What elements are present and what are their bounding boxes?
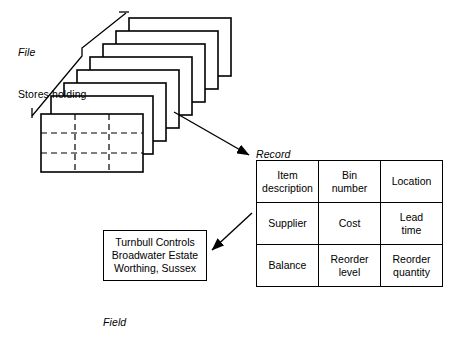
cell-line-1: Bin	[321, 169, 378, 182]
table-row: Item description Bin number Location	[257, 161, 443, 203]
table-cell-reorder-quantity: Reorder quantity	[381, 245, 443, 287]
table-cell-lead-time: Lead time	[381, 203, 443, 245]
table-row: Balance Reorder level Reorder quantity	[257, 245, 443, 287]
file-term-label: File	[18, 46, 87, 59]
table-cell-reorder-level: Reorder level	[319, 245, 381, 287]
field-line-3: Worthing, Sussex	[114, 262, 196, 275]
cell-line-1: Item	[259, 169, 316, 182]
data-hierarchy-diagram: File Stores holding Record Detail of one…	[0, 0, 456, 346]
cell-line-2: quantity	[383, 266, 440, 279]
cell-line-1: Location	[383, 175, 440, 188]
file-caption: File Stores holding	[18, 20, 87, 127]
cell-line-2: level	[321, 266, 378, 279]
cell-line-1: Reorder	[383, 253, 440, 266]
cell-line-2: description	[259, 182, 316, 195]
table-cell-balance: Balance	[257, 245, 319, 287]
cell-line-1: Cost	[321, 217, 378, 230]
file-description-label: Stores holding	[18, 88, 87, 101]
cell-line-1: Lead	[383, 211, 440, 224]
cell-line-1: Reorder	[321, 253, 378, 266]
cell-line-1: Balance	[259, 259, 316, 272]
table-row: Supplier Cost Lead time	[257, 203, 443, 245]
field-caption: Field Part of data about stores item	[103, 290, 188, 346]
cell-line-2: number	[321, 182, 378, 195]
table-cell-location: Location	[381, 161, 443, 203]
table-cell-supplier: Supplier	[257, 203, 319, 245]
field-line-1: Turnbull Controls	[115, 236, 195, 249]
field-example-box: Turnbull Controls Broadwater Estate Wort…	[103, 230, 207, 281]
table-cell-bin-number: Bin number	[319, 161, 381, 203]
arrow-record-to-field	[212, 213, 252, 250]
field-line-2: Broadwater Estate	[112, 249, 198, 262]
table-cell-cost: Cost	[319, 203, 381, 245]
cell-line-1: Supplier	[259, 217, 316, 230]
field-term-label: Field	[103, 316, 188, 329]
arrow-file-to-record	[174, 112, 249, 155]
cell-line-2: time	[383, 224, 440, 237]
table-cell-item-description: Item description	[257, 161, 319, 203]
record-table: Item description Bin number Location Sup…	[256, 160, 443, 287]
